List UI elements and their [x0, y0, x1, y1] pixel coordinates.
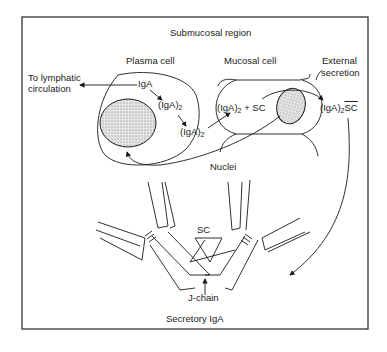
label-to-lymphatic-2: circulation — [28, 84, 71, 95]
label-iga-dimer-sc-secreted: (IgA)2SC — [320, 103, 358, 115]
label-iga-dimer-plasma: (IgA)2 — [158, 100, 183, 112]
label-iga: IgA — [138, 79, 152, 90]
label-iga-dimer-transit: (IgA)2 — [180, 127, 205, 139]
title-submucosal-region: Submucosal region — [170, 28, 251, 39]
label-sc: SC — [197, 225, 210, 236]
arrow-secretion-down — [290, 118, 349, 275]
label-external-secretion-1: External — [322, 56, 357, 67]
label-iga-dimer-plus-sc: (IgA)2 + SC — [217, 103, 266, 115]
plasma-cell-nucleus — [100, 99, 156, 147]
label-mucosal-cell: Mucosal cell — [224, 56, 276, 67]
secretory-iga-diagram: Submucosal region Plasma cell Mucosal ce… — [0, 0, 387, 352]
label-nuclei: Nuclei — [210, 162, 236, 173]
caption-secretory-iga: Secretory IgA — [166, 314, 224, 325]
frame — [22, 17, 368, 329]
label-j-chain: J-chain — [188, 293, 219, 304]
label-external-secretion-2: secretion — [321, 68, 360, 79]
arrow-dimer-down — [178, 115, 186, 126]
secretory-iga-molecule — [96, 180, 310, 295]
label-plasma-cell: Plasma cell — [126, 56, 175, 67]
arrow-dimer-to-mucosal — [208, 113, 230, 128]
